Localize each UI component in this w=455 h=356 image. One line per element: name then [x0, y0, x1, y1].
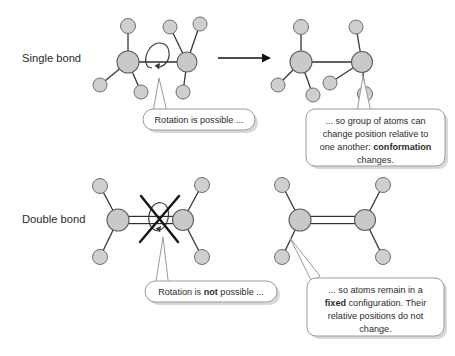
- atom: [93, 78, 107, 92]
- figure-root: Single bond Double bond: [0, 0, 455, 356]
- atom: [195, 178, 210, 193]
- transformation-arrow: [218, 54, 271, 63]
- structure-single-after: [271, 20, 373, 103]
- callout-line: change.: [359, 324, 391, 334]
- atom: [195, 250, 210, 265]
- row-label-double-bond: Double bond: [22, 213, 85, 225]
- carbon-atom: [173, 210, 194, 231]
- carbon-atom: [117, 51, 139, 73]
- callout-line: changes.: [357, 155, 394, 165]
- atom: [275, 250, 290, 265]
- callout-line: change position relative to: [323, 129, 429, 139]
- atom: [134, 85, 148, 99]
- callout-line: relative positions do not: [328, 311, 424, 321]
- carbon-atom: [355, 210, 376, 231]
- atom: [193, 17, 207, 31]
- row-label-single-bond: Single bond: [22, 52, 81, 64]
- atom: [323, 76, 337, 90]
- atom: [163, 20, 177, 34]
- carbon-atom: [177, 52, 197, 72]
- callout-line: ... so group of atoms can: [325, 116, 425, 126]
- callout-leader: [290, 238, 320, 282]
- callout-leader: [155, 237, 169, 288]
- structure-double-right: [275, 178, 391, 265]
- callout-line: fixed configuration. Their: [325, 298, 426, 308]
- carbon-atom: [352, 52, 373, 73]
- callout-line: Rotation is possible ...: [155, 115, 244, 125]
- atom: [306, 88, 320, 102]
- callout-leader: [153, 78, 167, 112]
- structure-single-before: [93, 17, 207, 99]
- carbon-atom: [290, 51, 312, 73]
- callout-line: one another: conformation: [320, 142, 432, 152]
- callout-line: Rotation is not possible ...: [158, 287, 264, 297]
- callout-line: ... so atoms remain in a: [328, 285, 423, 295]
- callout-rotation-not-possible: Rotation is not possible ...: [145, 237, 280, 305]
- atom: [275, 178, 290, 193]
- carbon-atom: [107, 209, 129, 231]
- atom: [349, 20, 363, 34]
- callout-rotation-possible: Rotation is possible ...: [143, 78, 258, 133]
- atom: [271, 78, 285, 92]
- atom: [93, 179, 108, 194]
- callout-fixed-configuration: ... so atoms remain in a fixed configura…: [290, 238, 447, 339]
- atom: [376, 250, 391, 265]
- atom: [121, 19, 136, 34]
- rotation-arrow-icon: [146, 43, 169, 69]
- atom: [176, 85, 190, 99]
- atom: [93, 250, 108, 265]
- chemistry-diagram: Single bond Double bond: [0, 0, 455, 356]
- carbon-atom: [289, 209, 311, 231]
- atom: [376, 178, 391, 193]
- atom: [294, 20, 309, 35]
- structure-double-left: [93, 178, 210, 265]
